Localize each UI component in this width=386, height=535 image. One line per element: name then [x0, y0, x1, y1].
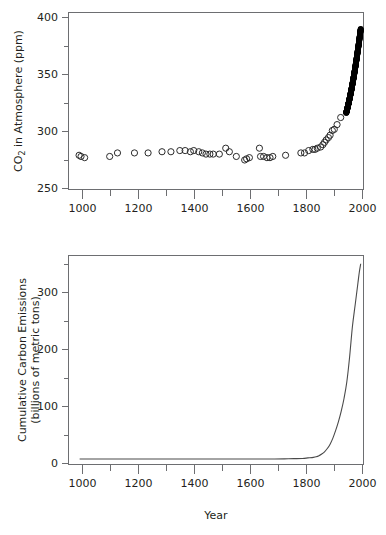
- co2-icecore-markers: [76, 114, 344, 163]
- co2-data-point: [334, 122, 340, 128]
- co2-data-point: [282, 152, 288, 158]
- bottom-plot-frame: [69, 256, 364, 465]
- emissions-curve: [80, 264, 361, 459]
- co2-data-point: [82, 155, 88, 161]
- top-ytick-350: 350: [37, 68, 58, 81]
- co2-data-point: [199, 150, 205, 156]
- top-xtick-1400: 1400: [181, 202, 209, 215]
- top-ytick-250: 250: [37, 182, 58, 195]
- top-xtick-1200: 1200: [125, 202, 153, 215]
- bottom-ytick-0: 0: [51, 457, 58, 470]
- bottom-xtick-1200: 1200: [125, 477, 153, 490]
- co2-data-point: [131, 150, 137, 156]
- top-y-minor-ticks: [64, 46, 69, 160]
- co2-data-point: [78, 153, 84, 159]
- svg-text:CO2 in Atmosphere (ppm): CO2 in Atmosphere (ppm): [12, 30, 27, 172]
- co2-data-point: [226, 149, 232, 155]
- climate-figure: 400 350 300 250 CO2 in Atmosphere (ppm): [0, 0, 386, 535]
- bottom-xtick-1000: 1000: [69, 477, 97, 490]
- top-x-minor-ticks: [111, 190, 335, 197]
- co2-data-point: [233, 153, 239, 159]
- co2-data-point: [145, 150, 151, 156]
- co2-label-rest: in Atmosphere (ppm): [12, 30, 25, 150]
- figure-svg: 400 350 300 250 CO2 in Atmosphere (ppm): [0, 0, 386, 535]
- co2-data-point: [216, 151, 222, 157]
- bottom-y-axis-title: Cumulative Carbon Emissions (billions of…: [16, 278, 42, 442]
- top-ytick-300: 300: [37, 125, 58, 138]
- bottom-panel: 300 200 100 0 Cumulative Carbon Emission…: [16, 256, 377, 523]
- co2-data-point: [168, 149, 174, 155]
- bottom-xtick-1800: 1800: [293, 477, 321, 490]
- top-xtick-1600: 1600: [237, 202, 265, 215]
- x-axis-title: Year: [203, 509, 228, 522]
- top-y-axis-title: CO2 in Atmosphere (ppm): [12, 30, 27, 172]
- co2-label-main: CO: [12, 155, 25, 172]
- co2-data-point: [338, 114, 344, 120]
- bottom-xtick-1600: 1600: [237, 477, 265, 490]
- co2-data-point: [107, 153, 113, 159]
- top-xtick-1800: 1800: [293, 202, 321, 215]
- co2-modern-point: [358, 26, 364, 32]
- bottom-x-minor-ticks: [111, 465, 335, 472]
- co2-data-point: [256, 145, 262, 151]
- co2-mauna-loa-band: [343, 26, 363, 116]
- bottom-y-axis-title-line2: (billions of metric tons): [29, 296, 42, 423]
- co2-data-point: [159, 149, 165, 155]
- bottom-y-axis-title-line1: Cumulative Carbon Emissions: [16, 278, 29, 442]
- bottom-xtick-1400: 1400: [181, 477, 209, 490]
- co2-data-point: [114, 150, 120, 156]
- bottom-xtick-2000: 2000: [349, 477, 377, 490]
- co2-data-point: [223, 145, 229, 151]
- top-plot-frame: [69, 13, 364, 190]
- top-panel: 400 350 300 250 CO2 in Atmosphere (ppm): [12, 11, 377, 215]
- top-ytick-400: 400: [37, 11, 58, 24]
- top-xtick-2000: 2000: [349, 202, 377, 215]
- top-xtick-1000: 1000: [69, 202, 97, 215]
